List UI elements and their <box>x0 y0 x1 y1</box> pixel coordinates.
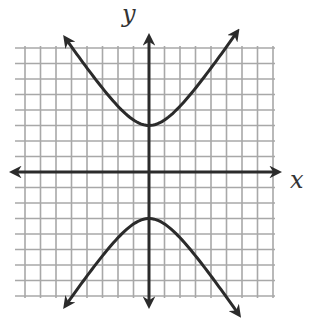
y-axis-label: y <box>121 0 136 28</box>
x-axis-label: x <box>290 166 304 194</box>
lower-branch <box>66 219 238 314</box>
hyperbola-graph: x y <box>0 0 310 318</box>
axes <box>14 38 277 304</box>
